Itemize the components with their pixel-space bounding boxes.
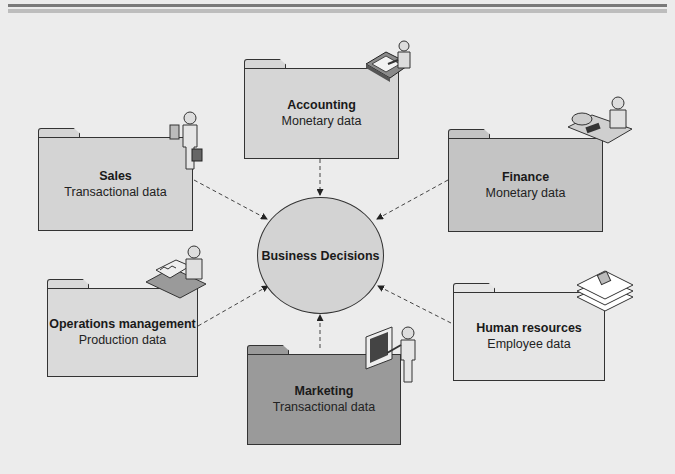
operations-worker-at-desk-icon [146, 244, 214, 300]
department-data-type: Transactional data [273, 399, 375, 415]
presenter-with-screen-icon [364, 325, 420, 387]
salesperson-with-briefcase-icon [168, 111, 204, 173]
arrow-finance [377, 180, 448, 219]
department-data-type: Production data [79, 332, 167, 348]
employee-records-icon [575, 265, 635, 317]
department-title: Sales [99, 169, 132, 184]
department-title: Operations management [49, 317, 196, 332]
department-title: Human resources [476, 321, 582, 336]
department-data-type: Transactional data [64, 184, 166, 200]
business-decisions-node: Business Decisions [257, 197, 384, 314]
department-data-type: Monetary data [486, 185, 566, 201]
folder-body: Operations management Production data [47, 288, 198, 377]
department-title: Marketing [294, 384, 353, 399]
finance-person-with-calculator-icon [568, 95, 634, 147]
arrow-sales [194, 180, 267, 219]
arrow-hr [378, 286, 451, 323]
department-title: Accounting [287, 98, 356, 113]
department-title: Finance [502, 170, 549, 185]
center-label: Business Decisions [261, 249, 379, 263]
department-data-type: Employee data [487, 336, 570, 352]
accountant-at-desk-icon [364, 40, 422, 86]
folder-body: Finance Monetary data [448, 138, 603, 232]
department-data-type: Monetary data [282, 113, 362, 129]
